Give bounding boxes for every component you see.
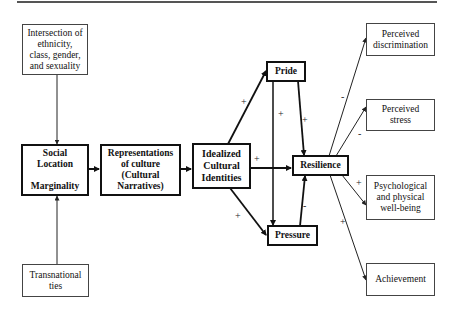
edge-resilience-stress (336, 107, 366, 156)
node-label: Psychological and physical well-being (374, 181, 427, 214)
node-pressure: Pressure (267, 225, 318, 246)
node-label: Idealized Cultural Identities (202, 148, 242, 184)
sign-resilience-stress: - (358, 128, 361, 139)
sign-pressure-resilience: - (303, 200, 306, 211)
node-transnational-ties: Transnational ties (22, 264, 89, 297)
node-label: Perceived discrimination (373, 29, 428, 51)
sign-pride-resilience: + (302, 114, 308, 125)
node-label: Resilience (300, 160, 341, 171)
node-label: Representations of culture (Cultural Nar… (108, 148, 173, 192)
sign-resilience-wellbeing: + (356, 177, 362, 188)
node-label: Perceived stress (382, 104, 419, 126)
node-resilience: Resilience (292, 155, 349, 176)
edge-idealized-pride (228, 71, 266, 144)
node-label: Pride (275, 66, 297, 77)
node-label: Intersection of ethnicity, class, gender… (27, 28, 82, 72)
node-social-location: Social Location Marginality (21, 144, 89, 196)
sign-resilience-achievement: + (340, 216, 346, 227)
diagram-canvas: Intersection of ethnicity, class, gender… (0, 0, 455, 315)
node-wellbeing: Psychological and physical well-being (366, 175, 435, 220)
node-idealized-cultural-identities: Idealized Cultural Identities (192, 143, 251, 189)
sign-idealized-pride: + (241, 96, 247, 107)
node-label: Transnational ties (30, 270, 82, 292)
edge-resilience-achievement (330, 175, 366, 280)
sign-pride-pressure: + (278, 108, 284, 119)
node-representations: Representations of culture (Cultural Nar… (100, 144, 181, 196)
node-label: Social Location Marginality (31, 148, 80, 192)
node-label: Achievement (375, 274, 426, 285)
sign-idealized-pressure: + (235, 210, 241, 221)
sign-idealized-resilience: + (254, 153, 260, 164)
edge-resilience-wellbeing (342, 175, 366, 205)
node-perceived-discrimination: Perceived discrimination (366, 23, 435, 56)
node-perceived-stress: Perceived stress (366, 99, 435, 131)
node-intersection: Intersection of ethnicity, class, gender… (22, 24, 88, 75)
node-label: Pressure (275, 230, 310, 241)
sign-resilience-discrimination: - (341, 91, 344, 102)
node-pride: Pride (266, 61, 306, 82)
node-achievement: Achievement (366, 263, 435, 296)
